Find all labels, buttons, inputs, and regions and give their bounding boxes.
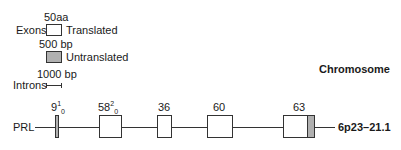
exon-4: [207, 115, 233, 138]
exon-5-translated: [283, 115, 308, 138]
intron-scale-tick-right: [61, 83, 62, 88]
untranslated-label: Untranslated: [66, 52, 128, 63]
exon-scale-label: 50aa: [44, 12, 68, 23]
exon-1-label: 910: [51, 102, 65, 113]
chromosome-header: Chromosome: [319, 64, 390, 75]
exon-2-label: 5820: [98, 102, 118, 113]
translated-swatch: [46, 24, 62, 36]
exon-3-label: 36: [158, 102, 170, 113]
exon-1: [55, 115, 59, 138]
exon-5-untranslated: [307, 115, 315, 138]
exon-2: [99, 115, 122, 138]
intron-scale-tick-left: [46, 83, 47, 88]
exon-3: [157, 115, 172, 138]
introns-label: Introns: [13, 80, 47, 91]
untranslated-swatch: [46, 51, 62, 63]
translated-label: Translated: [66, 25, 118, 36]
exon-5-label: 63: [293, 102, 305, 113]
exons-label: Exons: [16, 25, 47, 36]
intron-scale-bar: [46, 85, 62, 86]
exon-4-label: 60: [213, 102, 225, 113]
utr-scale-label: 500 bp: [39, 39, 73, 50]
chromosome-location: 6p23–21.1: [338, 122, 391, 133]
gene-name: PRL: [13, 122, 34, 133]
